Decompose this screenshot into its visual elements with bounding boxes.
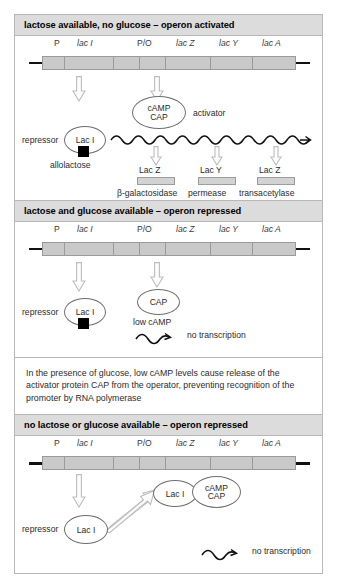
enzyme-name-3: transacetylase <box>239 188 294 198</box>
gene-bar-3 <box>42 456 296 470</box>
gene-label-po: P/O <box>137 38 152 48</box>
gene-segment-p-2 <box>43 243 65 255</box>
panel-header-activated: lactose available, no glucose – operon a… <box>15 15 322 36</box>
camp-cap-oval: cAMP CAP <box>132 96 186 129</box>
cap-oval: CAP <box>137 289 180 315</box>
allolactose-label: allolactose <box>50 160 91 170</box>
arrow-laci-to-repressor <box>72 76 86 102</box>
panel-header-repressed-glucose: lactose and glucose available – operon r… <box>15 200 322 222</box>
no-transcription-label-3: no transcription <box>252 546 311 556</box>
gene-label-laca-2: lac A <box>262 224 281 234</box>
gene-map-repressed-glucose: P lac I P/O lac Z lac Y lac A <box>15 222 322 262</box>
gene-label-laca-3: lac A <box>262 438 281 448</box>
gene-map-repressed-none: P lac I P/O lac Z lac Y lac A <box>15 436 322 476</box>
gene-segment-lacy-3 <box>211 457 254 469</box>
gene-map-activated: P lac I P/O lac Z lac Y lac A <box>15 36 322 76</box>
gene-label-laci-2: lac I <box>77 224 93 234</box>
panel-body-repressed-none: P lac I P/O lac Z lac Y lac A <box>15 436 322 572</box>
gene-label-lacz-3: lac Z <box>176 438 195 448</box>
product-gene-3: Lac Z <box>259 165 281 175</box>
panel-body-repressed-glucose: P lac I P/O lac Z lac Y lac A <box>15 222 322 357</box>
gene-map-labels-3: P lac I P/O lac Z lac Y lac A <box>15 438 322 452</box>
gene-label-p: P <box>54 38 60 48</box>
gene-segment-gap <box>114 57 140 69</box>
panel-header-repressed-none: no lactose or glucose available – operon… <box>15 414 322 436</box>
panel-operon-repressed-glucose: lactose and glucose available – operon r… <box>15 200 322 357</box>
short-wave-no-transcription-3 <box>201 546 249 566</box>
enzyme-name-2: permease <box>188 188 226 198</box>
gene-label-p-3: P <box>54 438 60 448</box>
cap-oval-text: CAP <box>150 298 168 307</box>
gene-segment-po-3 <box>140 457 166 469</box>
gene-segment-gap-2 <box>114 243 140 255</box>
gene-label-laci-3: lac I <box>77 438 93 448</box>
no-transcription-label-2: no transcription <box>187 330 246 340</box>
gene-label-lacy-2: lac Y <box>219 224 238 234</box>
panel-body-activated: P lac I P/O lac Z lac Y lac A <box>15 36 322 200</box>
gene-segment-lacz-3 <box>166 457 211 469</box>
gene-label-lacy: lac Y <box>219 38 238 48</box>
gene-label-lacz: lac Z <box>176 38 195 48</box>
lac-operon-figure: lactose available, no glucose – operon a… <box>14 14 323 574</box>
gene-segment-lacy-2 <box>211 243 254 255</box>
camp-cap-line2: CAP <box>150 113 168 122</box>
low-camp-label: low cAMP <box>133 317 171 327</box>
product-box-1 <box>137 177 175 185</box>
panel-operon-repressed-none: no lactose or glucose available – operon… <box>15 414 322 572</box>
repressor-laci-text-1: Lac I <box>76 136 95 145</box>
allolactose-marker-2 <box>78 318 89 329</box>
gene-segment-laci-2 <box>65 243 115 255</box>
bound-laci-oval: Lac I <box>153 480 197 507</box>
repressor-label-3: repressor <box>22 524 58 534</box>
gene-segment-laci-3 <box>65 457 115 469</box>
panel-operon-activated: lactose available, no glucose – operon a… <box>15 15 322 200</box>
gene-label-lacz-2: lac Z <box>176 224 195 234</box>
gene-segment-laca-2 <box>253 243 295 255</box>
gene-segment-laca-3 <box>253 457 295 469</box>
gene-segment-laca <box>253 57 295 69</box>
gene-segment-p <box>43 57 65 69</box>
short-wave-no-transcription-2 <box>135 330 183 350</box>
gene-label-lacy-3: lac Y <box>219 438 238 448</box>
gene-map-labels: P lac I P/O lac Z lac Y lac A <box>15 38 322 52</box>
gene-map-labels-2: P lac I P/O lac Z lac Y lac A <box>15 224 322 238</box>
repressor-laci-text-3: Lac I <box>77 526 96 535</box>
product-box-3 <box>257 177 295 185</box>
arrow-laci-to-repressor-2 <box>72 262 86 288</box>
bound-laci-text: Lac I <box>166 490 185 499</box>
gene-segment-lacz <box>166 57 211 69</box>
gene-segment-laci <box>65 57 115 69</box>
enzyme-name-1: β-galactosidase <box>117 188 177 198</box>
arrow-laci-to-repressor-3 <box>72 474 86 500</box>
gene-segment-po <box>140 57 166 69</box>
gene-segment-lacy <box>211 57 254 69</box>
camp-cap-oval-3: cAMP CAP <box>192 476 241 508</box>
gene-label-laci: lac I <box>77 38 93 48</box>
gene-segment-gap-3 <box>114 457 140 469</box>
repressor-label-1: repressor <box>22 135 58 145</box>
gene-label-p-2: P <box>54 224 60 234</box>
repressor-laci-oval-3: Lac I <box>64 515 108 544</box>
gene-label-po-2: P/O <box>137 224 152 234</box>
product-gene-2: Lac Y <box>200 165 222 175</box>
gene-segment-po-2 <box>140 243 166 255</box>
gene-label-laca: lac A <box>262 38 281 48</box>
gene-bar <box>42 56 296 70</box>
repressor-laci-text-2: Lac I <box>76 308 95 317</box>
gene-segment-p-3 <box>43 457 65 469</box>
gene-label-po-3: P/O <box>137 438 152 448</box>
arrow-po-to-cap-2 <box>150 262 164 288</box>
camp-cap-line2-3: CAP <box>208 492 226 501</box>
activator-label: activator <box>193 108 225 118</box>
allolactose-marker <box>78 146 89 157</box>
repressor-label-2: repressor <box>22 307 58 317</box>
product-box-2 <box>198 177 236 185</box>
explanatory-note: In the presence of glucose, low cAMP lev… <box>15 358 322 414</box>
product-gene-1: Lac Z <box>139 165 161 175</box>
gene-bar-2 <box>42 242 296 256</box>
gene-segment-lacz-2 <box>166 243 211 255</box>
